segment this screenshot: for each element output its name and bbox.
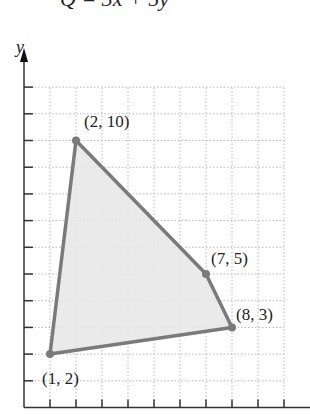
vertex-label: (7, 5) — [211, 249, 248, 268]
region-polygon — [50, 141, 232, 355]
feasible-region — [50, 141, 232, 355]
vertex-point — [72, 137, 80, 145]
vertex-point — [46, 350, 54, 358]
vertex-label: (1, 2) — [42, 369, 79, 388]
vertex-point — [228, 323, 236, 331]
vertex-label: (2, 10) — [84, 112, 129, 131]
feasible-region-chart: (1, 2)(2, 10)(7, 5)(8, 3) y — [0, 0, 310, 420]
vertex-point — [202, 270, 210, 278]
vertex-label: (8, 3) — [236, 305, 273, 324]
y-axis-label: y — [14, 37, 24, 57]
